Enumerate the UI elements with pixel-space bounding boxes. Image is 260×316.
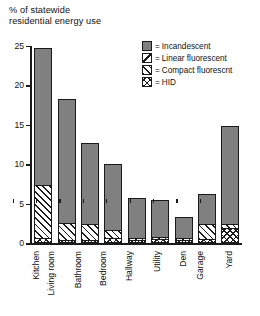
bar-den[interactable] (175, 217, 193, 243)
bar-segment-hid (176, 241, 192, 242)
y-axis-tick-mark (26, 204, 31, 205)
x-axis-label-slot: Garage (195, 251, 218, 313)
chart-title: % of statewide residential energy use (9, 5, 101, 28)
x-axis-label-text: Bedroom (99, 251, 108, 286)
y-axis-tick-label: 15 (14, 120, 24, 130)
bar-yard[interactable] (221, 126, 239, 244)
bar-series-group (32, 46, 242, 243)
bar-segment-solid (129, 199, 145, 239)
x-axis-label-text: Kitchen (32, 251, 41, 280)
y-axis-tick-mark (26, 243, 31, 244)
x-axis-label-den: Den (176, 251, 185, 267)
bar-segment-compact (82, 225, 98, 241)
bar-segment-solid (59, 100, 75, 225)
x-axis-label-text: Yard (225, 251, 234, 269)
x-axis-tick-mark (153, 199, 154, 203)
x-axis-tick-mark (106, 199, 107, 203)
bar-slot (125, 46, 148, 243)
plot-area: 0510152025 (30, 46, 242, 245)
bar-bedroom[interactable] (104, 164, 122, 243)
x-axis-label-bathroom: Bathroom (71, 251, 80, 288)
bar-segment-hid (82, 241, 98, 243)
bar-hallway[interactable] (128, 198, 146, 244)
y-axis-tick-label: 20 (14, 80, 24, 90)
y-axis-tick-label: 25 (14, 41, 24, 51)
x-axis-label-utility: Utility (150, 251, 159, 272)
bar-bathroom[interactable] (81, 143, 99, 243)
x-axis-tick-mark (83, 199, 84, 203)
bar-segment-compact (59, 224, 75, 240)
x-axis-label-hallway: Hallway (122, 251, 131, 281)
x-axis-tick (118, 199, 141, 203)
bar-segment-hid (105, 239, 121, 242)
bar-segment-solid (152, 201, 168, 238)
x-axis-label-slot: Hallway (125, 251, 148, 313)
bar-slot (219, 46, 242, 243)
x-axis-label-slot: Yard (219, 251, 242, 313)
y-axis-tick-label: 10 (14, 159, 24, 169)
x-axis-tick (72, 199, 95, 203)
x-axis-label-slot: Utility (148, 251, 171, 313)
x-axis-label-text: Hallway (125, 251, 134, 281)
x-axis-label-text: Bathroom (74, 251, 83, 288)
x-axis-label-text: Garage (196, 251, 205, 280)
bar-segment-hid (35, 239, 51, 243)
bar-slot (172, 46, 195, 243)
bar-slot (32, 46, 55, 243)
bar-kitchen[interactable] (34, 48, 52, 244)
x-axis-labels: KitchenLiving roomBathroomBedroomHallway… (32, 251, 242, 313)
bar-segment-hid (129, 241, 145, 243)
x-axis-tick-mark (59, 199, 60, 203)
x-axis-label-text: Den (179, 251, 188, 267)
bar-segment-compact (35, 186, 51, 238)
bar-segment-hid (222, 229, 238, 242)
bar-segment-hid (199, 240, 215, 242)
y-axis-tick-mark (26, 125, 31, 126)
x-axis-line (30, 243, 242, 245)
x-axis-label-kitchen: Kitchen (29, 251, 38, 280)
x-axis-tick-mark (36, 199, 37, 203)
bar-slot (78, 46, 101, 243)
bar-segment-solid (82, 144, 98, 224)
bar-segment-hid (59, 241, 75, 243)
x-axis-tick (95, 199, 118, 203)
x-axis-tick (142, 199, 165, 203)
y-axis-tick-mark (26, 164, 31, 165)
x-axis-label-text: Utility (153, 251, 162, 272)
x-axis-label-garage: Garage (193, 251, 202, 280)
bar-segment-hid (152, 240, 168, 242)
x-axis-tick (189, 199, 212, 203)
bar-segment-compact (105, 231, 121, 239)
x-axis-label-yard: Yard (222, 251, 231, 269)
bar-utility[interactable] (151, 200, 169, 243)
bar-slot (55, 46, 78, 243)
y-axis-tick-mark (26, 46, 31, 47)
x-axis-tick-mark (13, 199, 14, 203)
bar-slot (148, 46, 171, 243)
x-axis-tick (165, 199, 188, 203)
bar-segment-solid (176, 218, 192, 239)
bar-segment-solid (35, 49, 51, 187)
x-axis-tick (2, 199, 25, 203)
bar-slot (102, 46, 125, 243)
x-axis-ticks (2, 199, 212, 203)
x-axis-label-slot: Den (172, 251, 195, 313)
bar-segment-solid (222, 127, 238, 225)
x-axis-tick-mark (130, 199, 131, 203)
x-axis-label-text: Living room (47, 251, 56, 295)
y-axis-tick-label: 0 (19, 238, 24, 248)
x-axis-label-living-room: Living room (44, 251, 53, 295)
y-axis-tick-mark (26, 85, 31, 86)
bar-living-room[interactable] (58, 99, 76, 243)
x-axis-tick-mark (200, 199, 201, 203)
x-axis-tick (48, 199, 71, 203)
x-axis-tick-mark (176, 199, 177, 203)
bar-segment-compact (199, 225, 215, 240)
bar-slot (195, 46, 218, 243)
x-axis-label-bedroom: Bedroom (96, 251, 105, 286)
x-axis-tick (25, 199, 48, 203)
